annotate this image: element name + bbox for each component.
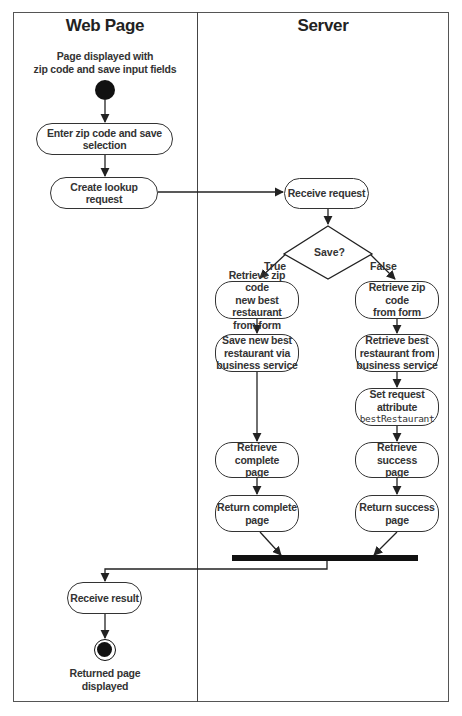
start-label-line2: zip code and save input fields (30, 63, 180, 76)
initial-node (95, 80, 115, 100)
activity-receive-request: Receive request (284, 178, 369, 209)
text-line: from form (373, 306, 421, 319)
text-line: Retrieve success (356, 441, 438, 466)
activity-enter-zip-code: Enter zip code and save selection (36, 123, 173, 155)
activity-true-retrieve-zip: Retrieve zip code new best restaurant fr… (215, 281, 299, 319)
text-line: from form (233, 319, 281, 332)
activity-true-save-best-restaurant: Save new best restaurant via business se… (215, 334, 299, 372)
text-line: Retrieve complete (216, 441, 298, 466)
start-label-line1: Page displayed with (30, 50, 180, 63)
text-line: Retrieve zip code (216, 269, 298, 294)
text-line: page (245, 466, 269, 479)
activity-receive-result-text: Receive result (70, 592, 138, 605)
text-line: attribute (377, 401, 417, 414)
text-line: restaurant from (360, 347, 435, 360)
text-line: business service (216, 359, 297, 372)
text-line: business service (356, 359, 437, 372)
text-line: page (245, 514, 269, 527)
final-node-core (97, 642, 112, 657)
activity-create-lookup-request: Create lookup request (50, 177, 158, 209)
code-text: bestRestaurant (360, 413, 434, 426)
activity-receive-result: Receive result (67, 582, 142, 614)
text-line: Retrieve zip code (356, 281, 438, 306)
final-node (94, 639, 116, 661)
join-sync-bar (232, 555, 418, 561)
activity-false-return-success-page: Return success page (355, 495, 439, 532)
decision-label: Save? (314, 246, 345, 258)
activity-false-retrieve-zip: Retrieve zip code from form (355, 281, 439, 319)
text-line: Set request (370, 388, 425, 401)
activity-true-retrieve-complete-page: Retrieve complete page (215, 442, 299, 478)
activity-receive-request-text: Receive request (288, 187, 366, 200)
activity-create-lookup-request-text: Create lookup request (51, 181, 157, 206)
activity-false-retrieve-best-restaurant: Retrieve best restaurant from business s… (355, 334, 439, 372)
end-label-line2: displayed (40, 680, 170, 693)
text-line: Retrieve best (365, 334, 428, 347)
start-label: Page displayed with zip code and save in… (30, 50, 180, 75)
end-label-line1: Returned page (40, 667, 170, 680)
text-line: page (385, 514, 409, 527)
text-line: Save new best (222, 334, 292, 347)
end-label: Returned page displayed (40, 667, 170, 692)
text-line: new best restaurant (216, 294, 298, 319)
activity-enter-zip-code-text: Enter zip code and save selection (37, 127, 172, 152)
activity-true-return-complete-page: Return complete page (215, 495, 299, 532)
text-line: Return complete (217, 501, 297, 514)
text-line: page (385, 466, 409, 479)
activity-false-retrieve-success-page: Retrieve success page (355, 442, 439, 478)
activity-false-set-request-attribute: Set request attribute bestRestaurant (355, 388, 439, 426)
branch-label-false: False (370, 260, 397, 272)
text-line: Return success (359, 501, 434, 514)
text-line: restaurant via (224, 347, 290, 360)
